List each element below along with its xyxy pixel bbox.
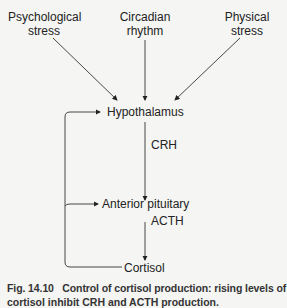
- input-psychological-stress: Psychological stress: [8, 10, 80, 38]
- psych-arrow: [53, 38, 117, 100]
- physical-arrow: [175, 38, 240, 100]
- figure-caption: Fig. 14.10 Control of cortisol productio…: [7, 282, 286, 294]
- caption-text: Control of cortisol production: rising l…: [62, 282, 286, 294]
- label-line: rhythm: [115, 24, 175, 38]
- label-line: Circadian: [115, 10, 175, 24]
- node-cortisol: Cortisol: [124, 261, 165, 275]
- feedback-to-pituitary: [65, 204, 98, 206]
- node-anterior-pituitary: Anterior pituitary: [102, 197, 189, 211]
- figure-caption-line2: cortisol inhibit CRH and ACTH production…: [7, 296, 219, 308]
- label-line: stress: [222, 24, 272, 38]
- feedback-to-hypothalamus: [65, 112, 122, 267]
- label-line: Physical: [222, 10, 272, 24]
- input-physical-stress: Physical stress: [222, 10, 272, 38]
- input-circadian-rhythm: Circadian rhythm: [115, 10, 175, 38]
- label-crh: CRH: [151, 138, 177, 152]
- label-line: Psychological: [8, 10, 80, 24]
- node-hypothalamus: Hypothalamus: [107, 105, 184, 119]
- label-acth: ACTH: [151, 214, 184, 228]
- caption-label: Fig. 14.10: [7, 282, 54, 294]
- label-line: stress: [8, 24, 80, 38]
